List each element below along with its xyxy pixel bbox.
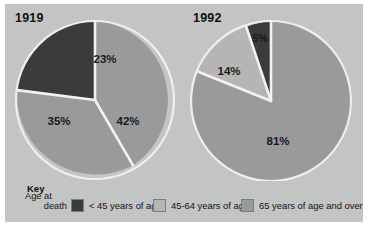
- pie-1919-label-left: 35%: [47, 115, 70, 127]
- chart-plate: 1919 23% 35%: [5, 4, 363, 222]
- legend-label-under-45: < 45 years of age: [89, 200, 162, 211]
- pie-1992-label-65plus: 81%: [266, 135, 289, 147]
- legend-subtitle-line2: death: [25, 202, 69, 212]
- pie-chart-1992: 5% 14% 81%: [188, 18, 354, 184]
- pie-chart-figure: 1919 23% 35%: [0, 0, 368, 228]
- legend-subtitle: Age at death: [25, 192, 69, 211]
- legend-label-65-plus: 65 years of age and over: [259, 200, 363, 211]
- legend-subtitle-line1: Age at: [25, 191, 52, 201]
- legend-item-45-64: 45-64 years of age: [153, 198, 249, 212]
- legend-swatch-65-plus: [241, 199, 254, 212]
- pie-1992-label-under45: 5%: [252, 32, 268, 44]
- legend-swatch-under-45: [71, 199, 84, 212]
- chart-panel-1919: 1919 23% 35%: [5, 4, 184, 189]
- legend-item-65-plus: 65 years of age and over: [241, 198, 363, 212]
- pie-1992-label-45-64: 14%: [217, 65, 240, 77]
- pie-1919-label-under45: 23%: [93, 53, 116, 65]
- legend-swatch-45-64: [153, 199, 166, 212]
- pie-1919-label-right: 42%: [116, 115, 139, 127]
- chart-panel-1992: 1992 5% 14%: [181, 4, 360, 189]
- legend-item-under-45: < 45 years of age: [71, 198, 162, 212]
- pie-1919-svg: 23% 35% 42%: [13, 18, 177, 182]
- legend: Key Age at death < 45 years of age 45-64…: [5, 181, 363, 222]
- legend-label-45-64: 45-64 years of age: [171, 200, 249, 211]
- pie-1992-svg: 5% 14% 81%: [188, 18, 354, 184]
- pie-1919-slice-under45: [17, 21, 95, 100]
- pie-chart-1919: 23% 35% 42%: [13, 18, 177, 182]
